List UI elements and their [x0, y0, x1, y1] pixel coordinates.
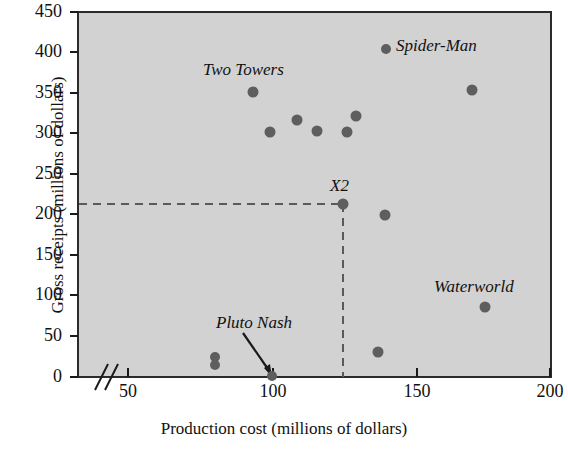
data-point-two-towers	[248, 87, 259, 98]
annotation-x2: X2	[330, 176, 349, 196]
data-point	[351, 111, 362, 122]
x-tick-label-50: 50	[98, 381, 158, 402]
y-axis-ticks	[70, 12, 78, 377]
annotation-spider-man: Spider-Man	[396, 36, 477, 56]
data-point	[312, 126, 323, 137]
annotation-waterworld: Waterworld	[434, 277, 514, 297]
y-axis-title: Gross receipts (millions of dollars)	[48, 0, 68, 395]
data-point	[467, 85, 478, 96]
data-point	[210, 360, 220, 370]
annotation-two-towers: Two Towers	[203, 60, 284, 80]
data-point-waterworld	[480, 302, 491, 313]
data-point	[265, 127, 276, 138]
data-point	[342, 127, 353, 138]
x-tick-label-200: 200	[520, 381, 568, 402]
x-tick-label-100: 100	[243, 381, 303, 402]
data-point	[380, 210, 391, 221]
x-tick-label-150: 150	[387, 381, 447, 402]
annotation-pluto-nash: Pluto Nash	[216, 313, 292, 333]
data-point	[373, 347, 384, 358]
plot-area-background	[78, 12, 551, 377]
scatter-plot-figure: 450 400 350 300 250 200 150 100 50 0 50 …	[0, 0, 568, 454]
x-axis-title: Production cost (millions of dollars)	[0, 419, 568, 439]
data-point	[292, 115, 303, 126]
data-point-x2	[338, 199, 349, 210]
data-point-spider-man	[381, 44, 391, 54]
data-point-pluto-nash	[267, 371, 277, 381]
